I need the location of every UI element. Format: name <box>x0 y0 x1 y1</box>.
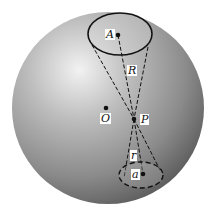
label-R: R <box>127 65 137 76</box>
point-A <box>116 33 121 38</box>
label-P: P <box>140 114 149 125</box>
label-A: A <box>105 29 115 40</box>
label-a: a <box>131 169 140 180</box>
label-O: O <box>100 113 111 124</box>
point-P <box>132 117 137 122</box>
label-r: r <box>130 150 137 161</box>
point-O <box>104 106 109 111</box>
point-a <box>141 172 146 177</box>
